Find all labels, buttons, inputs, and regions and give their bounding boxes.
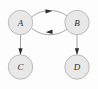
node-c[interactable]: C — [8, 55, 32, 79]
node-a[interactable]: A — [8, 10, 32, 34]
edge-a-to-c[interactable] — [18, 35, 22, 55]
edge-a-to-c-arrowhead — [18, 48, 22, 55]
node-d-label: D — [73, 62, 81, 72]
edge-b-to-a[interactable] — [32, 28, 68, 34]
graph-figure: A B C D — [0, 0, 98, 89]
edge-b-to-d[interactable] — [75, 35, 79, 55]
node-d[interactable]: D — [65, 55, 89, 79]
edge-a-to-b[interactable] — [32, 9, 68, 17]
graph-canvas: A B C D — [0, 0, 98, 89]
edge-a-to-b-arrowhead — [45, 9, 52, 13]
node-a-label: A — [17, 18, 24, 28]
node-c-label: C — [17, 62, 24, 72]
node-b[interactable]: B — [65, 10, 89, 34]
edge-b-to-d-arrowhead — [75, 48, 79, 55]
edge-b-to-a-arrowhead — [46, 30, 53, 34]
node-b-label: B — [74, 18, 80, 28]
